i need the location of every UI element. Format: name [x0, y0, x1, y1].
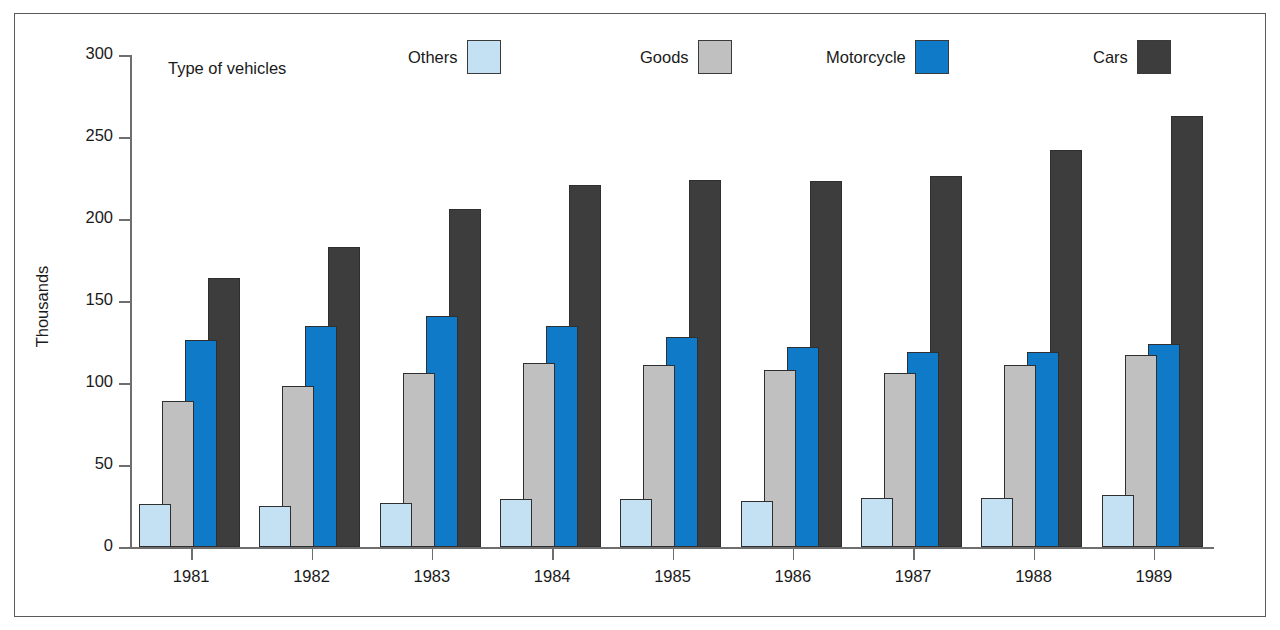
x-axis-tick-label: 1986	[738, 567, 848, 586]
x-axis-tick	[191, 548, 193, 560]
y-axis-tick	[119, 137, 130, 139]
bar-others-1988	[981, 498, 1013, 547]
y-axis-tick-label: 150	[43, 290, 113, 309]
bar-others-1982	[259, 506, 291, 547]
x-axis-tick-label: 1987	[858, 567, 968, 586]
bar-others-1983	[380, 503, 412, 547]
x-axis-tick-label: 1989	[1099, 567, 1209, 586]
y-axis-tick	[119, 301, 130, 303]
x-axis-tick	[312, 548, 314, 560]
x-axis-tick-label: 1984	[497, 567, 607, 586]
bar-others-1987	[861, 498, 893, 547]
x-axis-tick	[913, 548, 915, 560]
y-axis-tick-label: 50	[43, 454, 113, 473]
x-axis-tick-label: 1981	[136, 567, 246, 586]
y-axis-tick-label: 250	[43, 126, 113, 145]
bar-others-1981	[139, 504, 171, 547]
x-axis-tick	[432, 548, 434, 560]
y-axis-tick	[119, 383, 130, 385]
y-axis-tick	[119, 55, 130, 57]
x-axis-tick-label: 1983	[377, 567, 487, 586]
x-axis-tick	[1154, 548, 1156, 560]
bar-others-1985	[620, 499, 652, 547]
chart-figure: Type of vehicles Others Goods Motorcycle…	[14, 13, 1266, 617]
y-axis-tick	[119, 219, 130, 221]
bar-others-1986	[741, 501, 773, 547]
y-axis-tick-label: 100	[43, 372, 113, 391]
y-axis-tick-label: 300	[43, 44, 113, 63]
x-axis-tick-label: 1988	[979, 567, 1089, 586]
y-axis-tick	[119, 547, 130, 549]
y-axis-line	[130, 55, 132, 548]
bar-others-1984	[500, 499, 532, 547]
y-axis-tick	[119, 465, 130, 467]
x-axis-tick	[793, 548, 795, 560]
x-axis-tick	[552, 548, 554, 560]
x-axis-tick	[1034, 548, 1036, 560]
bar-others-1989	[1102, 495, 1134, 547]
y-axis-tick-label: 200	[43, 208, 113, 227]
x-axis-tick-label: 1985	[618, 567, 728, 586]
x-axis-tick-label: 1982	[257, 567, 367, 586]
x-axis-tick	[673, 548, 675, 560]
y-axis-tick-label: 0	[43, 536, 113, 555]
plot-area: Thousands 050100150200250300 19811982198…	[15, 14, 1265, 616]
